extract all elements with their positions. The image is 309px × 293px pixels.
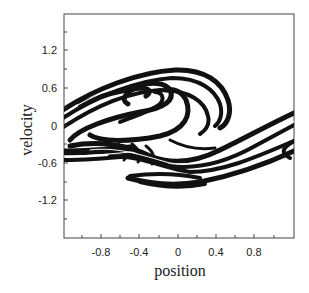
y-tick-label: 1.2 (42, 44, 57, 56)
y-axis-label: velocity (18, 104, 36, 156)
y-tick-label: -1.2 (38, 194, 57, 206)
x-tick-label: 0.4 (208, 246, 223, 258)
x-axis-label: position (154, 262, 206, 280)
x-tick-label: 0.8 (246, 246, 261, 258)
x-tick-label: 0 (175, 246, 181, 258)
y-tick-label: 0.6 (42, 82, 57, 94)
x-tick-label: -0.4 (130, 246, 149, 258)
y-tick-label: 0 (51, 120, 57, 132)
x-tick-label: -0.8 (92, 246, 111, 258)
phase-space-chart: 1.2 0.6 0 -0.6 -1.2 -0.8 -0.4 0 0.4 0.8 … (0, 0, 309, 293)
y-tick-label: -0.6 (38, 157, 57, 169)
